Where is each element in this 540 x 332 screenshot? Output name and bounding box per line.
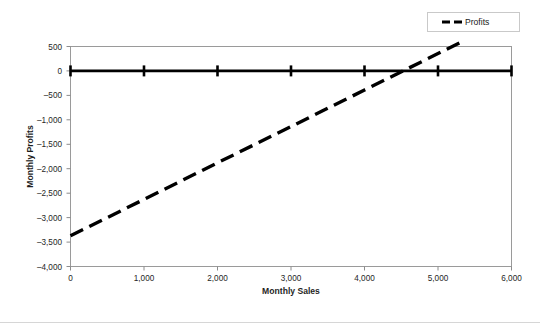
line-chart: 500 0 –500 –1,000 –1,500 –2,000 –2,500 –… bbox=[0, 0, 540, 332]
x-tick-label: 5,000 bbox=[428, 274, 449, 283]
y-tick-label: –4,000 bbox=[37, 263, 62, 272]
plot-area-frame bbox=[71, 47, 512, 267]
x-tick-label: 4,000 bbox=[354, 274, 375, 283]
x-tick-label: 3,000 bbox=[281, 274, 302, 283]
y-axis-tick-labels: 500 0 –500 –1,000 –1,500 –2,000 –2,500 –… bbox=[37, 43, 62, 272]
y-axis-title: Monthly Profits bbox=[25, 125, 35, 188]
y-tick-label: –2,500 bbox=[37, 189, 62, 198]
x-axis-title: Monthly Sales bbox=[262, 286, 320, 296]
chart-figure: 500 0 –500 –1,000 –1,500 –2,000 –2,500 –… bbox=[0, 0, 540, 332]
y-tick-label: –3,000 bbox=[37, 214, 62, 223]
y-tick-label: –1,500 bbox=[37, 140, 62, 149]
y-tick-label: –2,000 bbox=[37, 165, 62, 174]
y-tick-label: 0 bbox=[57, 67, 62, 76]
x-tick-label: 0 bbox=[68, 274, 73, 283]
x-axis-ticks bbox=[71, 267, 512, 271]
x-tick-label: 2,000 bbox=[207, 274, 228, 283]
legend-label-profits: Profits bbox=[465, 17, 489, 27]
y-tick-label: –1,000 bbox=[37, 116, 62, 125]
y-axis-ticks bbox=[67, 47, 71, 267]
x-tick-label: 1,000 bbox=[134, 274, 155, 283]
y-tick-label: –3,500 bbox=[37, 238, 62, 247]
legend: Profits bbox=[428, 13, 520, 32]
x-axis-tick-labels: 0 1,000 2,000 3,000 4,000 5,000 6,000 bbox=[68, 274, 522, 283]
y-tick-label: 500 bbox=[48, 43, 62, 52]
x-tick-label: 6,000 bbox=[501, 274, 522, 283]
y-tick-label: –500 bbox=[44, 91, 63, 100]
